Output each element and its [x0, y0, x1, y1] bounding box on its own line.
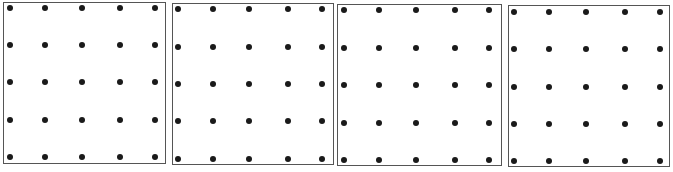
- grid-dot: [452, 82, 458, 88]
- grid-dot: [175, 44, 181, 50]
- grid-dot: [546, 158, 552, 164]
- grid-dot: [117, 5, 123, 11]
- grid-dot: [42, 117, 48, 123]
- grid-dot: [341, 45, 347, 51]
- grid-dot: [79, 154, 85, 160]
- grid-dot: [246, 6, 252, 12]
- grid-dot: [452, 7, 458, 13]
- grid-dot: [657, 9, 663, 15]
- grid-dot: [152, 117, 158, 123]
- grid-dot: [486, 45, 492, 51]
- grid-dot: [79, 5, 85, 11]
- grid-dot: [42, 5, 48, 11]
- grid-dot: [583, 121, 589, 127]
- grid-dot: [175, 6, 181, 12]
- grid-dot: [511, 121, 517, 127]
- grid-dot: [511, 158, 517, 164]
- grid-dot: [42, 42, 48, 48]
- grid-dot: [452, 157, 458, 163]
- grid-dot: [657, 46, 663, 52]
- grid-dot: [413, 82, 419, 88]
- grid-dot: [622, 84, 628, 90]
- grid-dot: [152, 79, 158, 85]
- grid-dot: [117, 79, 123, 85]
- grid-dot: [7, 5, 13, 11]
- grid-dot: [79, 79, 85, 85]
- grid-dot: [452, 45, 458, 51]
- grid-dot: [117, 154, 123, 160]
- grid-dot: [210, 81, 216, 87]
- grid-dot: [622, 9, 628, 15]
- grid-dot: [117, 42, 123, 48]
- grid-dot: [152, 42, 158, 48]
- grid-dot: [622, 121, 628, 127]
- grid-dot: [246, 118, 252, 124]
- grid-dot: [583, 46, 589, 52]
- grid-dot: [246, 156, 252, 162]
- grid-dot: [319, 6, 325, 12]
- grid-dot: [657, 158, 663, 164]
- grid-dot: [657, 121, 663, 127]
- grid-dot: [210, 6, 216, 12]
- grid-dot: [376, 120, 382, 126]
- grid-dot: [486, 120, 492, 126]
- grid-dot: [117, 117, 123, 123]
- grid-dot: [341, 7, 347, 13]
- grid-dot: [622, 46, 628, 52]
- grid-dot: [341, 157, 347, 163]
- dot-grid-panel-2: [172, 3, 334, 165]
- grid-dot: [546, 46, 552, 52]
- grid-dot: [319, 44, 325, 50]
- grid-dot: [152, 5, 158, 11]
- grid-dot: [583, 158, 589, 164]
- grid-dot: [7, 42, 13, 48]
- grid-dot: [511, 9, 517, 15]
- grid-dot: [42, 79, 48, 85]
- grid-dot: [210, 118, 216, 124]
- grid-dot: [319, 118, 325, 124]
- grid-dot: [413, 45, 419, 51]
- grid-dot: [546, 121, 552, 127]
- grid-dot: [413, 7, 419, 13]
- grid-dot: [285, 44, 291, 50]
- dot-grid-panel-4: [508, 5, 670, 167]
- grid-dot: [546, 84, 552, 90]
- grid-dot: [486, 82, 492, 88]
- grid-dot: [376, 45, 382, 51]
- grid-dot: [657, 84, 663, 90]
- grid-dot: [175, 81, 181, 87]
- grid-dot: [452, 120, 458, 126]
- grid-dot: [210, 156, 216, 162]
- grid-dot: [319, 81, 325, 87]
- grid-dot: [79, 117, 85, 123]
- grid-dot: [413, 157, 419, 163]
- grid-dot: [285, 118, 291, 124]
- grid-dot: [583, 9, 589, 15]
- grid-dot: [246, 44, 252, 50]
- grid-dot: [175, 118, 181, 124]
- grid-dot: [376, 7, 382, 13]
- grid-dot: [285, 6, 291, 12]
- grid-dot: [376, 157, 382, 163]
- grid-dot: [622, 158, 628, 164]
- grid-dot: [583, 84, 589, 90]
- grid-dot: [246, 81, 252, 87]
- grid-dot: [285, 156, 291, 162]
- grid-dot: [42, 154, 48, 160]
- grid-dot: [341, 120, 347, 126]
- grid-dot: [376, 82, 382, 88]
- grid-dot: [7, 79, 13, 85]
- grid-dot: [175, 156, 181, 162]
- grid-dot: [413, 120, 419, 126]
- grid-dot: [210, 44, 216, 50]
- dot-grid-panel-3: [337, 4, 502, 166]
- grid-dot: [152, 154, 158, 160]
- grid-dot: [546, 9, 552, 15]
- grid-dot: [486, 157, 492, 163]
- grid-dot: [319, 156, 325, 162]
- grid-dot: [341, 82, 347, 88]
- grid-dot: [486, 7, 492, 13]
- grid-dot: [7, 154, 13, 160]
- grid-dot: [79, 42, 85, 48]
- grid-dot: [511, 84, 517, 90]
